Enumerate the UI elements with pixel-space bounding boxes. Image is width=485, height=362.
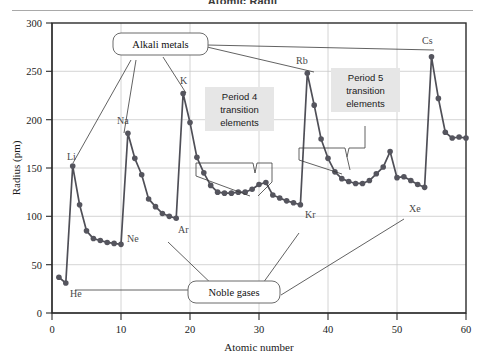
x-tick-10: 10 <box>116 324 127 335</box>
label-xe: Xe <box>409 203 421 214</box>
gridlines <box>52 23 466 313</box>
data-point <box>291 200 297 206</box>
data-point <box>256 182 262 188</box>
data-point <box>463 135 469 141</box>
data-point <box>429 54 435 60</box>
period4-note-line2: transition <box>220 104 259 115</box>
data-point <box>201 170 207 176</box>
y-tick-300: 300 <box>26 18 42 29</box>
data-point <box>146 196 152 202</box>
data-point <box>125 130 131 136</box>
data-point <box>360 181 366 187</box>
label-ne: Ne <box>127 233 139 244</box>
data-point <box>91 236 97 242</box>
y-tick-250: 250 <box>26 66 42 77</box>
data-point <box>367 178 373 184</box>
data-point <box>415 182 421 188</box>
y-axis-title: Radius (pm) <box>10 140 23 195</box>
period5-note-line1: Period 5 <box>348 72 383 83</box>
data-point <box>187 120 193 126</box>
y-tick-50: 50 <box>32 260 43 271</box>
data-point <box>270 192 276 198</box>
data-point <box>56 274 62 280</box>
data-point <box>353 181 359 187</box>
y-axis <box>46 23 52 313</box>
data-point <box>456 134 462 140</box>
label-rb: Rb <box>296 55 308 66</box>
y-tick-200: 200 <box>26 115 42 126</box>
noble-gases-callout: Noble gases <box>188 281 280 303</box>
data-point <box>408 178 414 184</box>
period5-note-line2: transition <box>346 85 385 96</box>
data-point <box>325 156 331 162</box>
noble-gases-callout-label: Noble gases <box>208 287 259 298</box>
y-tick-100: 100 <box>26 211 42 222</box>
chart-plot-area: 300 250 200 150 100 50 0 0 10 20 30 40 5… <box>0 0 485 362</box>
data-point <box>215 189 221 195</box>
y-tick-150: 150 <box>26 163 42 174</box>
x-axis <box>52 313 466 320</box>
data-point <box>374 171 380 177</box>
alkali-metals-callout: Alkali metals <box>113 33 208 55</box>
data-point <box>222 190 228 196</box>
data-point <box>132 156 138 162</box>
x-tick-50: 50 <box>392 324 403 335</box>
alkali-metals-callout-label: Alkali metals <box>132 39 188 50</box>
data-point <box>173 215 179 221</box>
label-k: K <box>180 75 188 86</box>
data-point <box>380 164 386 170</box>
label-li: Li <box>67 151 76 162</box>
data-point <box>298 202 304 208</box>
x-tick-30: 30 <box>254 324 265 335</box>
data-point <box>153 204 159 210</box>
data-point <box>139 172 145 178</box>
data-point <box>401 174 407 180</box>
data-point <box>194 155 200 161</box>
data-point <box>84 228 90 234</box>
data-point <box>77 202 83 208</box>
x-tick-40: 40 <box>323 324 334 335</box>
atomic-radii-figure: Atomic Radii <box>0 0 485 362</box>
data-point <box>305 70 311 76</box>
data-point <box>98 238 104 244</box>
x-tick-0: 0 <box>49 324 54 335</box>
data-point <box>387 149 393 155</box>
x-axis-title: Atomic number <box>224 341 294 353</box>
data-point <box>339 176 345 182</box>
data-point <box>277 195 283 201</box>
data-point <box>436 96 442 102</box>
label-kr: Kr <box>305 209 316 220</box>
data-point <box>63 280 69 286</box>
period4-note-line3: elements <box>220 117 259 128</box>
data-point <box>318 136 324 142</box>
data-point <box>104 240 110 246</box>
data-point <box>229 190 235 196</box>
data-point <box>249 186 255 192</box>
period4-note-line1: Period 4 <box>222 91 257 102</box>
data-point <box>160 211 166 217</box>
label-na: Na <box>117 115 129 126</box>
data-point <box>263 180 269 186</box>
data-point <box>449 135 455 141</box>
data-point <box>70 163 76 169</box>
label-cs: Cs <box>422 35 433 46</box>
label-he: He <box>70 288 82 299</box>
data-point <box>284 198 290 204</box>
data-point <box>346 179 352 185</box>
data-point <box>208 183 214 189</box>
period5-note: Period 5 transition elements <box>331 68 400 112</box>
data-point <box>443 129 449 135</box>
data-point <box>422 185 428 191</box>
data-point <box>118 242 124 248</box>
period4-note: Period 4 transition elements <box>205 87 274 131</box>
data-point <box>311 102 317 108</box>
x-tick-20: 20 <box>185 324 196 335</box>
data-point <box>394 175 400 181</box>
data-point <box>111 241 117 247</box>
period5-note-line3: elements <box>346 98 385 109</box>
x-tick-60: 60 <box>461 324 472 335</box>
label-ar: Ar <box>178 224 189 235</box>
data-point <box>167 214 173 220</box>
y-tick-0: 0 <box>37 308 42 319</box>
